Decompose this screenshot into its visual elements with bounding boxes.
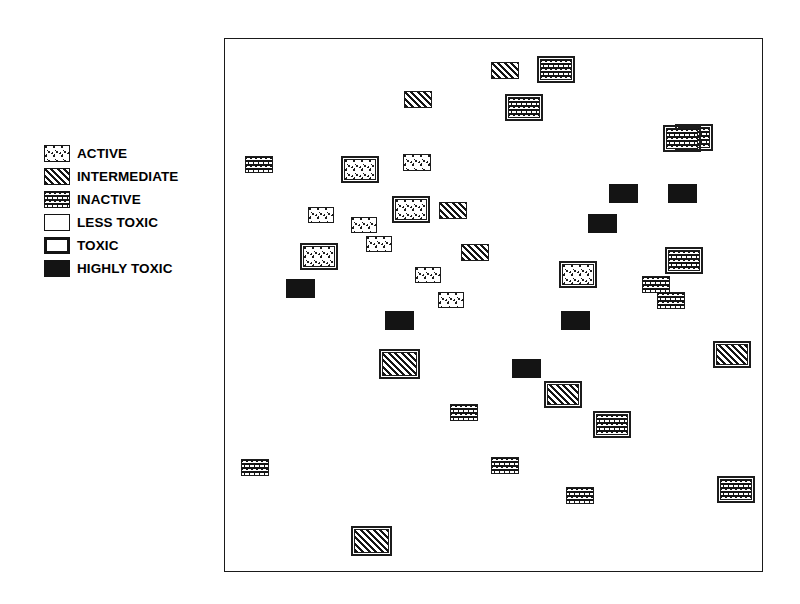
data-marker bbox=[668, 184, 697, 203]
data-marker bbox=[491, 457, 519, 474]
data-marker bbox=[351, 217, 377, 233]
data-marker bbox=[344, 159, 376, 180]
data-marker bbox=[508, 97, 540, 118]
data-marker bbox=[566, 487, 594, 504]
data-marker bbox=[561, 311, 590, 330]
data-marker bbox=[461, 244, 489, 261]
plot-area bbox=[225, 39, 762, 571]
data-marker bbox=[547, 384, 579, 405]
data-marker bbox=[666, 128, 698, 149]
data-marker bbox=[241, 459, 269, 476]
data-marker bbox=[286, 279, 315, 298]
data-marker bbox=[303, 246, 335, 267]
legend-label: HIGHLY TOXIC bbox=[77, 262, 172, 276]
legend-swatch-none bbox=[44, 214, 70, 231]
data-marker bbox=[588, 214, 617, 233]
data-marker bbox=[354, 529, 389, 553]
legend-label: LESS TOXIC bbox=[77, 216, 158, 230]
legend-swatch-stipple-dots bbox=[44, 145, 70, 162]
legend-swatch-solid-black bbox=[44, 260, 70, 277]
data-marker bbox=[403, 154, 431, 171]
data-marker bbox=[404, 91, 432, 108]
data-marker bbox=[450, 404, 478, 421]
data-marker bbox=[245, 156, 273, 173]
data-marker bbox=[308, 207, 334, 223]
legend-label: INACTIVE bbox=[77, 193, 141, 207]
legend-item-less-toxic: LESS TOXIC bbox=[44, 211, 214, 234]
data-marker bbox=[415, 267, 441, 283]
legend-label: INTERMEDIATE bbox=[77, 170, 178, 184]
data-marker bbox=[439, 202, 467, 219]
data-marker bbox=[562, 264, 594, 285]
data-marker bbox=[382, 352, 417, 376]
data-marker bbox=[716, 344, 748, 365]
data-marker bbox=[385, 311, 414, 330]
data-marker bbox=[668, 250, 700, 271]
data-marker bbox=[720, 479, 752, 500]
legend-swatch-none bbox=[44, 237, 70, 254]
legend-item-active: ACTIVE bbox=[44, 142, 214, 165]
data-marker bbox=[657, 292, 685, 309]
data-marker bbox=[395, 199, 427, 220]
data-marker bbox=[366, 236, 392, 252]
legend-item-inactive: INACTIVE bbox=[44, 188, 214, 211]
legend-swatch-checkerboard bbox=[44, 191, 70, 208]
data-marker bbox=[438, 292, 464, 308]
data-marker bbox=[609, 184, 638, 203]
legend-swatch-diagonal-hatch bbox=[44, 168, 70, 185]
legend: ACTIVEINTERMEDIATEINACTIVELESS TOXICTOXI… bbox=[44, 142, 214, 280]
legend-item-intermediate: INTERMEDIATE bbox=[44, 165, 214, 188]
legend-label: ACTIVE bbox=[77, 147, 127, 161]
data-marker bbox=[540, 59, 572, 80]
plot-frame bbox=[224, 38, 763, 572]
legend-item-toxic: TOXIC bbox=[44, 234, 214, 257]
data-marker bbox=[512, 359, 541, 378]
legend-item-highly-toxic: HIGHLY TOXIC bbox=[44, 257, 214, 280]
data-marker bbox=[596, 414, 628, 435]
data-marker bbox=[491, 62, 519, 79]
data-marker bbox=[642, 276, 670, 293]
legend-label: TOXIC bbox=[77, 239, 119, 253]
